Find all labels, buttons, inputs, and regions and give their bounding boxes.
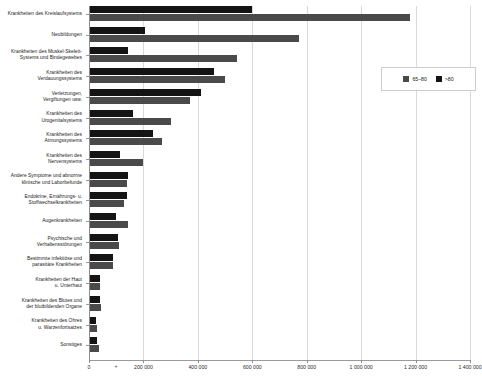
bar-over-80 (89, 275, 100, 282)
bar-row (0, 296, 480, 317)
bar-row (0, 337, 480, 358)
bar-over-80 (89, 47, 128, 54)
bar-row (0, 213, 480, 234)
bar-65-80 (89, 35, 299, 42)
bar-65-80 (89, 283, 100, 290)
bar-over-80 (89, 68, 214, 75)
bar-65-80 (89, 200, 124, 207)
bar-row (0, 275, 480, 296)
bar-65-80 (89, 242, 119, 249)
bar-over-80 (89, 89, 201, 96)
bar-65-80 (89, 262, 113, 269)
bar-over-80 (89, 192, 127, 199)
bar-65-80 (89, 76, 225, 83)
bar-65-80 (89, 14, 410, 21)
legend-label-65-80: 65–80 (412, 76, 426, 82)
bar-over-80 (89, 110, 133, 117)
legend-swatch-65-80 (403, 76, 409, 82)
bar-over-80 (89, 151, 120, 158)
bar-over-80 (89, 27, 145, 34)
bar-65-80 (89, 55, 237, 62)
bar-65-80 (89, 159, 143, 166)
bar-row (0, 130, 480, 151)
bar-over-80 (89, 337, 97, 344)
bar-over-80 (89, 213, 116, 220)
bar-over-80 (89, 254, 113, 261)
bar-row (0, 27, 480, 48)
bar-over-80 (89, 130, 153, 137)
bar-row (0, 317, 480, 338)
bar-65-80 (89, 325, 97, 332)
bar-65-80 (89, 180, 127, 187)
bar-65-80 (89, 345, 99, 352)
bar-65-80 (89, 97, 190, 104)
bar-row (0, 192, 480, 213)
bar-row (0, 151, 480, 172)
bar-row (0, 89, 480, 110)
bar-row (0, 234, 480, 255)
gridline-0 (89, 6, 90, 360)
bar-row (0, 172, 480, 193)
legend-item-over-80: >80 (436, 76, 454, 82)
bar-over-80 (89, 317, 96, 324)
bar-over-80 (89, 6, 252, 13)
bar-row (0, 47, 480, 68)
legend-item-65-80: 65–80 (403, 76, 426, 82)
bar-row (0, 110, 480, 131)
bar-row (0, 6, 480, 27)
bar-65-80 (89, 304, 101, 311)
bar-row (0, 254, 480, 275)
legend-label-over-80: >80 (445, 76, 454, 82)
legend-swatch-over-80 (436, 76, 442, 82)
chart-legend: 65–80 >80 (381, 67, 476, 91)
bar-over-80 (89, 234, 118, 241)
bar-over-80 (89, 172, 128, 179)
bar-65-80 (89, 221, 128, 228)
bar-65-80 (89, 118, 171, 125)
bar-65-80 (89, 138, 162, 145)
bar-over-80 (89, 296, 100, 303)
